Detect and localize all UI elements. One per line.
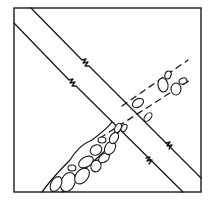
band-a-lower-break-2 [146, 157, 152, 164]
pebble-cluster-sparse [131, 70, 188, 123]
diagram-figure [0, 0, 212, 202]
pebble-cluster-dense [42, 122, 128, 194]
frame-border [14, 8, 201, 192]
diagram-svg [0, 0, 212, 202]
